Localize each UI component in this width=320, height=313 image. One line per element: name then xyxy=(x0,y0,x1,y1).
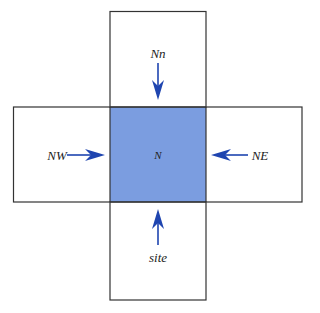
label-top: Nn xyxy=(149,46,165,61)
neighborhood-diagram: Nn NW NE site N xyxy=(0,0,320,313)
arrow-right-icon xyxy=(67,149,105,161)
arrow-down-icon xyxy=(152,63,164,100)
label-bottom: site xyxy=(149,250,167,265)
arrow-up-icon xyxy=(152,209,164,245)
label-left: NW xyxy=(46,148,68,163)
arrow-left-icon xyxy=(211,149,248,161)
label-right: NE xyxy=(251,148,269,163)
label-center: N xyxy=(153,149,162,161)
